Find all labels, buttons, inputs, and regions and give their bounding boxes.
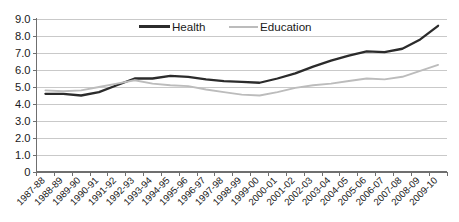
cropped-title-strip bbox=[0, 0, 459, 9]
y-tick-label: 3.0 bbox=[15, 115, 31, 127]
y-tick-label: 0 bbox=[24, 166, 30, 178]
x-axis-labels: 1987-881988-891989-901990-911991-921992-… bbox=[14, 174, 439, 207]
y-tick-label: 6.0 bbox=[15, 64, 31, 76]
y-axis-labels: 01.02.03.04.05.06.07.08.09.0 bbox=[15, 13, 37, 178]
chart-legend: HealthEducation bbox=[139, 20, 312, 33]
y-tick-label: 1.0 bbox=[15, 149, 31, 161]
y-tick-label: 2.0 bbox=[15, 132, 31, 144]
y-tick-label: 8.0 bbox=[15, 30, 31, 42]
line-chart: 01.02.03.04.05.06.07.08.09.0 1987-881988… bbox=[0, 0, 459, 222]
legend-label-health: Health bbox=[172, 20, 206, 33]
y-tick-label: 7.0 bbox=[15, 47, 31, 59]
chart-canvas: 01.02.03.04.05.06.07.08.09.0 1987-881988… bbox=[0, 0, 459, 222]
legend-label-education: Education bbox=[260, 20, 312, 33]
y-tick-label: 9.0 bbox=[15, 13, 31, 25]
y-tick-label: 4.0 bbox=[15, 98, 31, 110]
y-tick-label: 5.0 bbox=[15, 81, 31, 93]
